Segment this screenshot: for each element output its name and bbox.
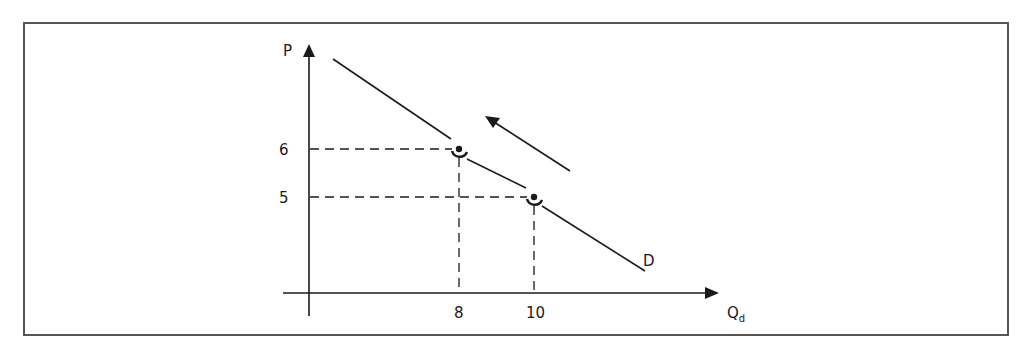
x-axis-label: Qd — [727, 304, 745, 324]
x-axis-arrow-icon — [705, 287, 719, 299]
demand-curve-upper — [333, 59, 451, 139]
demand-curve-lower — [542, 206, 645, 271]
point-b-dot-icon — [531, 194, 537, 200]
figure-frame — [24, 23, 1008, 335]
y-tick-6: 6 — [279, 141, 289, 159]
point-b — [527, 194, 542, 205]
demand-curve-label: D — [643, 252, 655, 270]
point-a — [452, 146, 467, 157]
x-tick-8: 8 — [454, 304, 464, 322]
demand-curve-middle — [467, 159, 526, 188]
point-a-dot-icon — [456, 146, 462, 152]
movement-arrow — [494, 122, 570, 171]
x-tick-10: 10 — [526, 304, 545, 322]
y-axis-arrow-icon — [303, 44, 315, 57]
demand-diagram: P Qd 6 5 8 10 D — [0, 0, 1026, 356]
y-tick-5: 5 — [279, 189, 289, 207]
movement-arrow-head-icon — [485, 116, 500, 128]
y-axis-label: P — [283, 42, 292, 60]
